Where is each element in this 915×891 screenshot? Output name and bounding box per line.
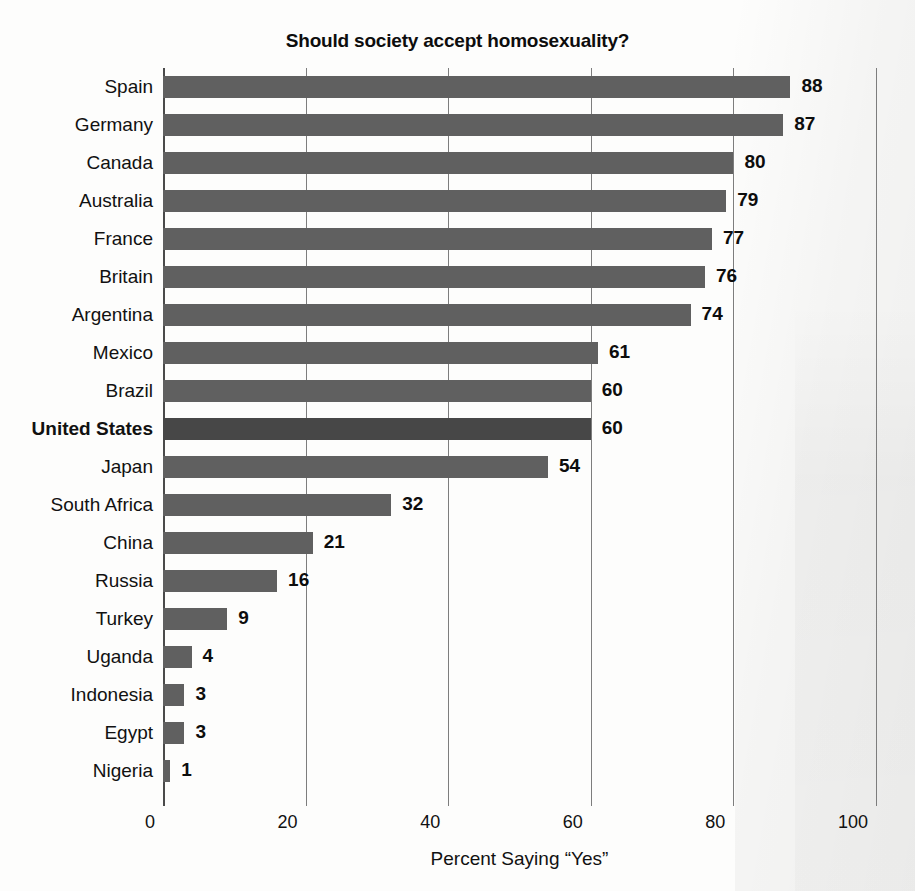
bar[interactable]: [163, 190, 726, 212]
bar-value-label: 4: [203, 645, 214, 667]
bar[interactable]: [163, 418, 591, 440]
bar[interactable]: [163, 456, 548, 478]
bar-row[interactable]: Britain76: [163, 258, 876, 296]
bar[interactable]: [163, 114, 783, 136]
bar-row[interactable]: Argentina74: [163, 296, 876, 334]
bar-value-label: 87: [794, 113, 815, 135]
bar-value-label: 32: [402, 493, 423, 515]
gridline-100: [876, 68, 877, 806]
category-label: Canada: [0, 144, 153, 182]
bar-row[interactable]: Mexico61: [163, 334, 876, 372]
bar-value-label: 21: [324, 531, 345, 553]
bar-row[interactable]: Uganda4: [163, 638, 876, 676]
x-axis-title: Percent Saying “Yes”: [163, 848, 876, 870]
bar-row[interactable]: China21: [163, 524, 876, 562]
bar[interactable]: [163, 228, 712, 250]
x-tick-label-80: 80: [669, 812, 725, 833]
x-tick-label-0: 0: [99, 812, 155, 833]
chart-page: Should society accept homosexuality? Spa…: [0, 0, 915, 891]
category-label: United States: [0, 410, 153, 448]
bar[interactable]: [163, 760, 170, 782]
bar[interactable]: [163, 342, 598, 364]
x-tick-label-20: 20: [242, 812, 298, 833]
bar-row[interactable]: Nigeria1: [163, 752, 876, 790]
category-label: Russia: [0, 562, 153, 600]
plot-area: Spain88Germany87Canada80Australia79Franc…: [163, 68, 876, 806]
chart-title: Should society accept homosexuality?: [0, 30, 915, 52]
bar[interactable]: [163, 266, 705, 288]
bar[interactable]: [163, 152, 733, 174]
category-label: Germany: [0, 106, 153, 144]
bar-row[interactable]: Russia16: [163, 562, 876, 600]
x-tick-label-40: 40: [384, 812, 440, 833]
category-label: Japan: [0, 448, 153, 486]
bar-row[interactable]: Japan54: [163, 448, 876, 486]
bar-row[interactable]: Brazil60: [163, 372, 876, 410]
category-label: France: [0, 220, 153, 258]
bar-row[interactable]: France77: [163, 220, 876, 258]
category-label: Argentina: [0, 296, 153, 334]
category-label: Australia: [0, 182, 153, 220]
bar[interactable]: [163, 532, 313, 554]
category-label: Indonesia: [0, 676, 153, 714]
bar[interactable]: [163, 608, 227, 630]
category-label: Britain: [0, 258, 153, 296]
category-label: Brazil: [0, 372, 153, 410]
category-label: Mexico: [0, 334, 153, 372]
category-label: Uganda: [0, 638, 153, 676]
bar[interactable]: [163, 76, 790, 98]
category-label: South Africa: [0, 486, 153, 524]
bar-value-label: 88: [801, 75, 822, 97]
bar[interactable]: [163, 722, 184, 744]
category-label: Egypt: [0, 714, 153, 752]
bar[interactable]: [163, 684, 184, 706]
bar-value-label: 61: [609, 341, 630, 363]
bar[interactable]: [163, 494, 391, 516]
bar-value-label: 1: [181, 759, 192, 781]
bar-row[interactable]: United States60: [163, 410, 876, 448]
bar[interactable]: [163, 380, 591, 402]
bar-value-label: 54: [559, 455, 580, 477]
bar-value-label: 79: [737, 189, 758, 211]
bar[interactable]: [163, 646, 192, 668]
bar-value-label: 74: [702, 303, 723, 325]
bar[interactable]: [163, 304, 691, 326]
bar-value-label: 80: [744, 151, 765, 173]
bar-value-label: 77: [723, 227, 744, 249]
x-tick-label-60: 60: [527, 812, 583, 833]
bar-value-label: 3: [195, 721, 206, 743]
bar-row[interactable]: Egypt3: [163, 714, 876, 752]
bar-value-label: 76: [716, 265, 737, 287]
category-label: China: [0, 524, 153, 562]
bar-value-label: 60: [602, 379, 623, 401]
bar-value-label: 60: [602, 417, 623, 439]
category-label: Turkey: [0, 600, 153, 638]
bar-row[interactable]: Spain88: [163, 68, 876, 106]
x-tick-label-100: 100: [812, 812, 868, 833]
bar-value-label: 3: [195, 683, 206, 705]
category-label: Nigeria: [0, 752, 153, 790]
bar-value-label: 9: [238, 607, 249, 629]
bar-row[interactable]: Germany87: [163, 106, 876, 144]
bar-value-label: 16: [288, 569, 309, 591]
category-label: Spain: [0, 68, 153, 106]
bar-row[interactable]: Turkey9: [163, 600, 876, 638]
bar-row[interactable]: Indonesia3: [163, 676, 876, 714]
bar-row[interactable]: Canada80: [163, 144, 876, 182]
bar-row[interactable]: Australia79: [163, 182, 876, 220]
bar[interactable]: [163, 570, 277, 592]
bar-row[interactable]: South Africa32: [163, 486, 876, 524]
